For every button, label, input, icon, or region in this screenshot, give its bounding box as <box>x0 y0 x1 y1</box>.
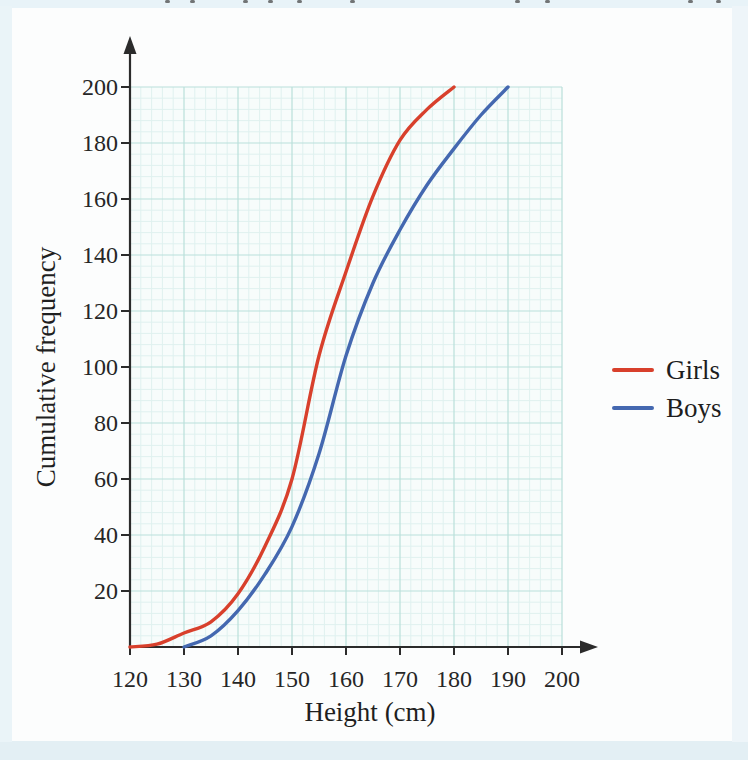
y-tick-label: 160 <box>54 184 118 214</box>
y-tick-label: 100 <box>54 352 118 382</box>
x-axis-arrow <box>580 641 598 654</box>
y-tick-label: 180 <box>54 128 118 158</box>
x-tick-label: 140 <box>208 665 268 693</box>
legend: Girls Boys <box>612 351 722 427</box>
y-tick-label: 120 <box>54 296 118 326</box>
girls-line-swatch <box>612 368 654 372</box>
boys-line-swatch <box>612 406 654 410</box>
x-axis-title: Height (cm) <box>220 696 520 728</box>
cumulative-frequency-chart-page: Cumulative frequency Height (cm) 2040608… <box>0 0 748 760</box>
legend-label-girls: Girls <box>666 355 720 386</box>
x-tick-label: 190 <box>478 665 538 693</box>
y-tick-label: 40 <box>54 520 118 550</box>
legend-item-girls: Girls <box>612 351 722 389</box>
x-tick-label: 200 <box>532 665 592 693</box>
x-tick-label: 130 <box>154 665 214 693</box>
legend-label-boys: Boys <box>666 393 722 424</box>
x-tick-label: 150 <box>262 665 322 693</box>
y-tick-label: 200 <box>54 72 118 102</box>
y-tick-label: 80 <box>54 408 118 438</box>
x-tick-label: 180 <box>424 665 484 693</box>
y-tick-label: 60 <box>54 464 118 494</box>
x-tick-label: 170 <box>370 665 430 693</box>
x-tick-label: 120 <box>100 665 160 693</box>
y-axis-arrow <box>124 36 137 54</box>
y-tick-label: 140 <box>54 240 118 270</box>
x-tick-label: 160 <box>316 665 376 693</box>
y-tick-label: 20 <box>54 576 118 606</box>
legend-item-boys: Boys <box>612 389 722 427</box>
